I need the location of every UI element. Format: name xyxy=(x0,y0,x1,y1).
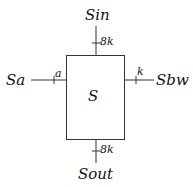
block-label: S xyxy=(88,89,98,104)
bottom-port-width: 8k xyxy=(100,144,114,155)
top-port-name: Sin xyxy=(85,8,110,23)
right-port-width: k xyxy=(137,66,144,77)
bottom-port-name: Sout xyxy=(78,167,113,182)
left-port-width: a xyxy=(55,68,62,79)
right-port-name: Sbw xyxy=(156,73,189,88)
top-port-width: 8k xyxy=(100,36,114,47)
block-diagram: Sin 8k S 8k Sout Sa a Sbw k xyxy=(0,0,193,187)
left-port-name: Sa xyxy=(6,73,25,88)
